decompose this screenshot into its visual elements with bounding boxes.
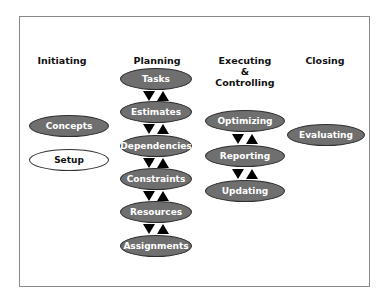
node-dependencies: Dependencies [120, 135, 192, 157]
node-setup: Setup [29, 149, 109, 171]
node-evaluating: Evaluating [287, 124, 365, 146]
bidirectional-arrow-icon [232, 134, 258, 144]
node-estimates: Estimates [120, 101, 192, 123]
node-optimizing: Optimizing [205, 110, 285, 132]
node-label: Updating [222, 186, 269, 196]
bidirectional-arrow-icon [232, 169, 258, 179]
node-label: Setup [54, 155, 84, 165]
node-label: Estimates [131, 107, 181, 117]
bidirectional-arrow-icon [143, 91, 169, 101]
node-label: Evaluating [299, 130, 353, 140]
node-label: Concepts [46, 121, 93, 131]
header-closing: Closing [305, 55, 344, 66]
node-label: Dependencies [120, 141, 191, 151]
node-updating: Updating [205, 180, 285, 202]
header-text: Planning [134, 55, 181, 66]
node-constraints: Constraints [120, 168, 192, 190]
node-assignments: Assignments [120, 235, 192, 257]
node-label: Constraints [127, 174, 186, 184]
header-line-controlling: Controlling [215, 77, 274, 88]
bidirectional-arrow-icon [143, 224, 169, 234]
header-initiating: Initiating [37, 55, 86, 66]
header-line-ampersand: & [215, 66, 274, 77]
node-resources: Resources [120, 201, 192, 223]
bidirectional-arrow-icon [143, 191, 169, 201]
node-tasks: Tasks [120, 68, 192, 90]
node-label: Assignments [123, 241, 188, 251]
header-executing-controlling: Executing & Controlling [215, 55, 274, 88]
node-concepts: Concepts [29, 115, 109, 137]
header-line-executing: Executing [215, 55, 274, 66]
bidirectional-arrow-icon [143, 158, 169, 168]
header-text: Initiating [37, 55, 86, 66]
node-label: Tasks [142, 74, 170, 84]
header-text: Closing [305, 55, 344, 66]
node-reporting: Reporting [205, 145, 285, 167]
node-label: Optimizing [217, 116, 272, 126]
node-label: Resources [130, 207, 182, 217]
bidirectional-arrow-icon [143, 124, 169, 134]
header-planning: Planning [134, 55, 181, 66]
node-label: Reporting [220, 151, 270, 161]
